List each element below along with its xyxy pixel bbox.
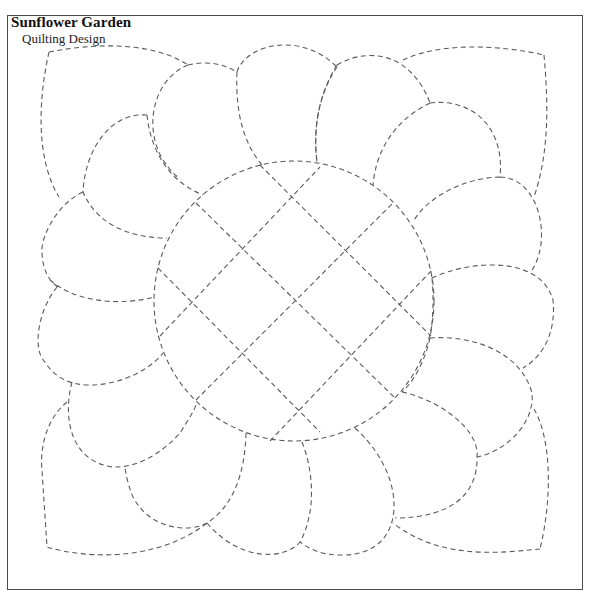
petal-bottom-3 — [125, 433, 246, 528]
quilting-pattern — [0, 0, 594, 596]
petal-right-3 — [430, 265, 553, 368]
petal-bottom-1 — [300, 428, 394, 555]
petal-upper-left-2 — [153, 63, 237, 178]
petal-left-3 — [42, 192, 155, 302]
petal-bottom-right-1 — [395, 392, 477, 518]
bottom-left-corner-leaf — [42, 402, 207, 555]
petal-upper-left-1 — [83, 115, 203, 238]
center-crosshatch-grid — [158, 165, 432, 441]
grid-line-down-right-1 — [260, 165, 431, 336]
grid-line-down-right-3 — [158, 268, 320, 432]
petal-right-2 — [413, 177, 542, 270]
grid-line-down-right-2 — [196, 203, 395, 398]
bottom-right-corner-leaf — [393, 409, 548, 552]
top-right-corner-leaf — [403, 47, 547, 197]
petal-top-1 — [237, 45, 337, 165]
petal-left-1 — [68, 382, 197, 467]
petal-right-4 — [402, 338, 532, 457]
petal-outlines — [38, 45, 553, 555]
grid-line-up-right-2 — [196, 203, 393, 400]
petal-left-2 — [38, 287, 163, 385]
petal-right-1 — [373, 102, 500, 185]
top-left-corner-leaf — [41, 46, 188, 197]
grid-line-up-right-1 — [160, 167, 320, 336]
petal-bottom-2 — [207, 442, 312, 554]
petal-top-2 — [316, 56, 430, 162]
